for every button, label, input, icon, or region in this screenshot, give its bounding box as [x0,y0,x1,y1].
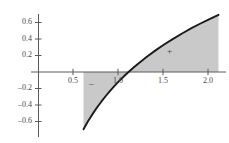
y-tick-label-0: 0.6 [10,18,32,26]
x-tick-label-0: 0.5 [63,77,83,85]
negative-region-sign: – [89,79,94,88]
positive-region-sign: + [167,47,172,56]
y-tick-label-5: –0.6 [7,117,32,125]
y-tick-label-4: –0.4 [7,101,32,109]
chart-plot-area [0,0,229,143]
chart-figure: 0.6 0.4 0.2 –0.2 –0.4 –0.6 0.5 1.0 1.5 2… [0,0,229,143]
y-tick-label-3: –0.2 [7,84,32,92]
x-tick-label-1: 1.0 [108,77,128,85]
shaded-region-positive [129,15,219,72]
x-tick-label-3: 2.0 [198,77,218,85]
y-tick-label-1: 0.4 [10,35,32,43]
x-tick-label-2: 1.5 [153,77,173,85]
y-tick-label-2: 0.2 [10,51,32,59]
